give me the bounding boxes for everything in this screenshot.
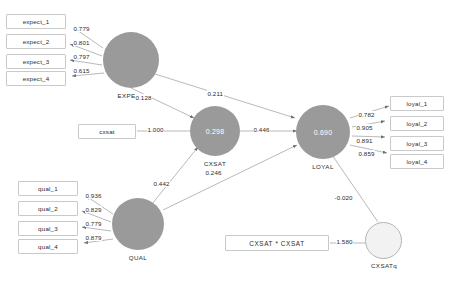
construct-label-loyal: LOYAL (296, 163, 350, 170)
indicator-box-expect-4[interactable]: expect_4 (6, 71, 66, 86)
loading-label-loyal-4: 0.859 (358, 150, 375, 157)
construct-cxsat[interactable]: 0.298 (190, 106, 240, 156)
path-coef-qual-loyal: 0.246 (205, 169, 222, 176)
loading-label-qual-3: 0.779 (85, 220, 102, 227)
loading-label-loyal-1: 0.782 (358, 111, 375, 118)
loading-label-loyal-3: 0.891 (356, 137, 373, 144)
loading-label-qual-2: 0.829 (85, 206, 102, 213)
construct-loyal[interactable]: 0.690 (296, 105, 350, 159)
indicator-box-loyal-1[interactable]: loyal_1 (390, 96, 444, 111)
loading-label-cxsat-squared: 1.580 (336, 238, 353, 245)
loading-label-qual-4: 0.879 (85, 234, 102, 241)
indicator-box-qual-2[interactable]: qual_2 (18, 201, 78, 216)
indicator-box-qual-4[interactable]: qual_4 (18, 239, 78, 254)
construct-cxsatq[interactable] (365, 222, 402, 259)
indicator-box-expect-3[interactable]: expect_3 (6, 54, 66, 69)
loading-label-expect-4: 0.615 (73, 67, 90, 74)
indicator-box-loyal-4[interactable]: loyal_4 (390, 154, 444, 169)
path-coef-cxsatq-loyal: -0.020 (334, 194, 353, 201)
loading-label-cxsat: 1.000 (147, 126, 164, 133)
indicator-box-cxsat-squared[interactable]: CXSAT * CXSAT (225, 235, 329, 251)
loading-label-loyal-2: 0.905 (356, 124, 373, 131)
indicator-box-cxsat[interactable]: cxsat (78, 124, 136, 139)
loading-label-expect-1: 0.779 (73, 25, 90, 32)
construct-expect[interactable] (103, 32, 159, 88)
construct-label-qual: QUAL (112, 254, 164, 261)
indicator-box-qual-1[interactable]: qual_1 (18, 181, 78, 196)
indicator-box-expect-1[interactable]: expect_1 (6, 14, 66, 29)
construct-label-cxsatq: CXSATq (362, 262, 406, 269)
loading-label-expect-2: 0.801 (73, 39, 90, 46)
construct-cxsat-r2: 0.298 (206, 128, 225, 135)
path-coef-expect-loyal: 0.211 (207, 90, 224, 97)
construct-qual[interactable] (112, 198, 164, 250)
loading-label-expect-3: 0.797 (73, 53, 90, 60)
indicator-box-qual-3[interactable]: qual_3 (18, 221, 78, 236)
indicator-box-expect-2[interactable]: expect_2 (6, 34, 66, 49)
construct-loyal-r2: 0.690 (314, 129, 333, 136)
construct-label-cxsat: CXSAT (188, 160, 242, 167)
indicator-box-loyal-2[interactable]: loyal_2 (390, 116, 444, 131)
path-coef-qual-cxsat: 0.442 (153, 180, 170, 187)
loading-label-qual-1: 0.936 (85, 192, 102, 199)
path-coef-cxsat-loyal: 0.446 (253, 126, 270, 133)
indicator-box-loyal-3[interactable]: loyal_3 (390, 136, 444, 151)
path-coef-expect-cxsat: 0.128 (135, 94, 152, 101)
path-diagram-canvas: expect_1 expect_2 expect_3 expect_4 0.77… (0, 0, 450, 283)
